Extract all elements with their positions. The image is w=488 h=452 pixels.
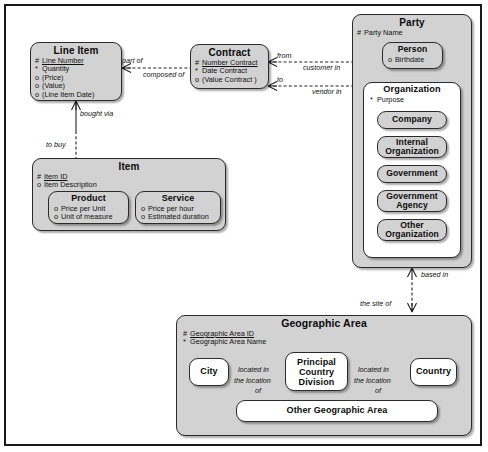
entity-contract-attributes: #Number Contract *Date Contract o(Value … <box>191 58 268 84</box>
entity-geographic-area-attributes: #Geographic Area ID *Geographic Area Nam… <box>177 329 471 347</box>
edge-label-the-location-of-2b: of <box>375 387 381 395</box>
edge-label-to-buy: to buy <box>46 141 66 149</box>
edge-label-from: from <box>277 52 291 60</box>
attr-marker: o <box>37 181 44 189</box>
entity-city[interactable]: City <box>189 358 229 386</box>
attr-marker: o <box>388 56 395 64</box>
attribute-row: o(Value Contract ) <box>195 76 268 84</box>
entity-geographic-area-title: Geographic Area <box>177 316 471 329</box>
entity-organization-title: Organization <box>364 83 460 95</box>
edge-label-the-location-of-2a: the location <box>354 377 391 385</box>
attr-label: Purpose <box>377 95 404 104</box>
entity-government-title: Government <box>386 169 438 179</box>
attribute-row: oEstimated duration <box>141 213 220 221</box>
attr-marker: # <box>357 29 364 37</box>
edge-label-vendor-in: vendor in <box>312 88 342 96</box>
entity-service-title: Service <box>136 192 220 204</box>
attribute-row: #Party Name <box>357 29 471 37</box>
entity-government[interactable]: Government <box>377 165 447 183</box>
edge-label-based-in: based in <box>421 271 448 279</box>
diagram-canvas: Contract (dashed, crow's foot at Line It… <box>0 0 488 452</box>
entity-principal-country-division[interactable]: Principal Country Division <box>285 352 348 391</box>
entity-other-geographic-area[interactable]: Other Geographic Area <box>236 400 438 422</box>
edge-label-part-of: part of <box>122 57 142 65</box>
attr-label: (Value Contract ) <box>202 75 257 84</box>
entity-service[interactable]: Service oPrice per hour oEstimated durat… <box>135 191 221 224</box>
attr-marker: o <box>54 213 61 221</box>
entity-organization-attributes: *Purpose <box>364 95 460 104</box>
attr-label: Estimated duration <box>148 212 209 221</box>
entity-line-item-title: Line Item <box>31 43 121 56</box>
entity-government-agency[interactable]: Government Agency <box>377 190 447 212</box>
attr-label: Party Name <box>364 28 403 37</box>
edge-label-the-location-of-1a: the location <box>234 377 271 385</box>
entity-person[interactable]: Person oBirthdate <box>382 42 443 69</box>
edge-label-customer-in: customer in <box>303 64 340 72</box>
attr-marker: o <box>141 213 148 221</box>
attr-label: (Line Item Date) <box>42 90 94 99</box>
entity-line-item-attributes: #Line Number *Quantity o(Price) o(Value)… <box>31 56 121 99</box>
attr-label: Unit of measure <box>61 212 113 221</box>
attribute-row: o(Line Item Date) <box>35 91 121 99</box>
entity-other-organization-title: Other Organization <box>378 221 446 240</box>
attr-marker: o <box>35 91 42 99</box>
entity-country[interactable]: Country <box>410 358 457 386</box>
edge-label-the-site-of: the site of <box>360 300 391 308</box>
attr-marker: * <box>370 96 377 104</box>
edge-label-composed-of: composed of <box>143 71 184 79</box>
entity-product[interactable]: Product oPrice per Unit oUnit of measure <box>48 191 129 224</box>
edge-label-to: to <box>277 76 283 84</box>
attr-label: Geographic Area Name <box>190 337 266 346</box>
attr-label: Birthdate <box>395 55 424 64</box>
entity-product-attributes: oPrice per Unit oUnit of measure <box>49 204 128 222</box>
entity-principal-country-division-title: Principal Country Division <box>286 357 347 387</box>
entity-service-attributes: oPrice per hour oEstimated duration <box>136 204 220 222</box>
entity-city-title: City <box>200 367 217 377</box>
entity-line-item[interactable]: Line Item #Line Number *Quantity o(Price… <box>30 42 122 101</box>
entity-person-attributes: oBirthdate <box>383 55 442 64</box>
entity-item-attributes: #Item ID oItem Description <box>33 172 225 190</box>
attribute-row: oBirthdate <box>388 56 442 64</box>
entity-other-geographic-area-title: Other Geographic Area <box>287 406 388 416</box>
edge-label-located-in-2: located in <box>358 366 389 374</box>
attribute-row: oItem Description <box>37 181 225 189</box>
entity-internal-organization-title: Internal Organization <box>378 138 446 157</box>
entity-person-title: Person <box>383 43 442 55</box>
attribute-row: *Geographic Area Name <box>183 338 471 346</box>
entity-contract-title: Contract <box>191 45 268 58</box>
attribute-row: oUnit of measure <box>54 213 128 221</box>
attribute-row: *Purpose <box>370 96 460 104</box>
edge-label-located-in-1: located in <box>238 366 269 374</box>
entity-other-organization[interactable]: Other Organization <box>377 219 447 241</box>
entity-country-title: Country <box>416 367 451 377</box>
entity-internal-organization[interactable]: Internal Organization <box>377 136 447 158</box>
entity-party-title: Party <box>353 15 471 28</box>
entity-party-attributes: #Party Name <box>353 28 471 37</box>
entity-company-title: Company <box>392 115 432 125</box>
edge-label-bought-via: bought via <box>80 110 113 118</box>
entity-government-agency-title: Government Agency <box>378 192 446 211</box>
entity-company[interactable]: Company <box>377 111 447 129</box>
entity-product-title: Product <box>49 192 128 204</box>
attr-marker: o <box>195 76 202 84</box>
edge-label-the-location-of-1b: of <box>255 387 261 395</box>
entity-item-title: Item <box>33 159 225 172</box>
attr-marker: * <box>183 338 190 346</box>
entity-contract[interactable]: Contract #Number Contract *Date Contract… <box>190 44 269 89</box>
attr-label: Item Description <box>44 180 97 189</box>
